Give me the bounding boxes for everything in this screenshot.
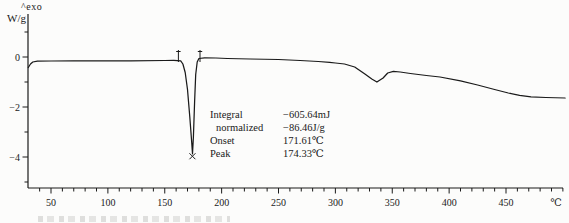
svg-text:200: 200 [214, 197, 229, 208]
annotation-value: −605.64mJ [283, 108, 330, 121]
svg-text:100: 100 [100, 197, 115, 208]
svg-text:350: 350 [385, 197, 400, 208]
annotation-value: −86.46J/g [283, 121, 330, 134]
annotation-label: Peak [210, 147, 283, 160]
y-axis-unit-label: W/g [7, 12, 26, 24]
svg-text:−4: −4 [9, 152, 20, 163]
svg-text:0: 0 [15, 52, 20, 63]
annotation-label: Onset [210, 134, 283, 147]
svg-text:450: 450 [499, 197, 514, 208]
annotation-value: 171.61℃ [283, 134, 330, 147]
peak-annotation: Integral −605.64mJ normalized −86.46J/g … [210, 108, 330, 160]
svg-text:400: 400 [442, 197, 457, 208]
dsc-figure: 50100150200250300350400450℃0−2−4 ^exo W/… [0, 0, 569, 223]
exo-direction-label: ^exo [21, 1, 42, 12]
annotation-label: normalized [210, 121, 283, 134]
svg-text:300: 300 [328, 197, 343, 208]
svg-text:150: 150 [157, 197, 172, 208]
svg-text:50: 50 [46, 197, 56, 208]
svg-text:−2: −2 [9, 102, 20, 113]
svg-text:250: 250 [271, 197, 286, 208]
cropped-caption [38, 216, 230, 222]
svg-text:℃: ℃ [550, 197, 561, 208]
annotation-value: 174.33℃ [283, 147, 330, 160]
annotation-label: Integral [210, 108, 283, 121]
